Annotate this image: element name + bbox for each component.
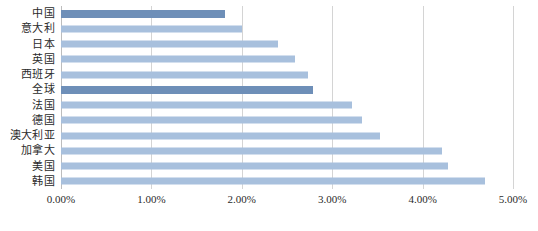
bar[interactable] xyxy=(61,25,242,32)
category-label: 日本 xyxy=(0,37,58,52)
bar-row xyxy=(61,6,513,21)
bar-row xyxy=(61,52,513,67)
category-label: 法国 xyxy=(0,98,58,113)
plot-area xyxy=(61,6,513,189)
bar[interactable] xyxy=(61,41,278,48)
bar[interactable] xyxy=(61,178,485,185)
x-tick-label: 4.00% xyxy=(408,193,436,205)
bar[interactable] xyxy=(61,71,308,78)
x-tick-label: 1.00% xyxy=(137,193,165,205)
category-label: 全球 xyxy=(0,82,58,97)
bar-row xyxy=(61,113,513,128)
category-label: 加拿大 xyxy=(0,143,58,158)
x-tick-label: 0.00% xyxy=(47,193,75,205)
bar-row xyxy=(61,98,513,113)
category-label: 美国 xyxy=(0,159,58,174)
bar[interactable] xyxy=(61,102,352,109)
bar[interactable] xyxy=(61,10,225,18)
bar-row xyxy=(61,174,513,189)
bar-row xyxy=(61,128,513,143)
bar[interactable] xyxy=(61,163,448,170)
x-tick-label: 2.00% xyxy=(228,193,256,205)
x-tick-label: 3.00% xyxy=(318,193,346,205)
bar-series xyxy=(61,6,513,189)
bar-row xyxy=(61,82,513,97)
category-label: 西班牙 xyxy=(0,67,58,82)
bar[interactable] xyxy=(61,56,295,63)
bar-row xyxy=(61,37,513,52)
bar-chart: 中国意大利日本英国西班牙全球法国德国澳大利亚加拿大美国韩国 0.00%1.00%… xyxy=(0,0,538,231)
bar[interactable] xyxy=(61,117,362,124)
category-label: 澳大利亚 xyxy=(0,128,58,143)
category-label: 韩国 xyxy=(0,174,58,189)
category-label: 德国 xyxy=(0,113,58,128)
bar[interactable] xyxy=(61,147,442,154)
bar[interactable] xyxy=(61,132,380,139)
value-axis-labels: 0.00%1.00%2.00%3.00%4.00%5.00% xyxy=(61,193,513,213)
bar-row xyxy=(61,159,513,174)
bar-row xyxy=(61,21,513,36)
x-tick-label: 5.00% xyxy=(499,193,527,205)
category-label: 中国 xyxy=(0,6,58,21)
category-label: 意大利 xyxy=(0,21,58,36)
gridline-500 xyxy=(513,6,514,189)
category-label: 英国 xyxy=(0,52,58,67)
bar-row xyxy=(61,67,513,82)
bar[interactable] xyxy=(61,86,313,94)
bar-row xyxy=(61,143,513,158)
category-axis-labels: 中国意大利日本英国西班牙全球法国德国澳大利亚加拿大美国韩国 xyxy=(0,6,58,189)
